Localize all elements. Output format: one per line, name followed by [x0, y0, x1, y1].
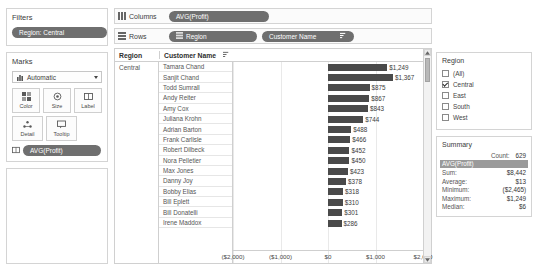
rows-shelf-label-group: Rows [118, 32, 164, 41]
customer-name-cell[interactable]: Sanjit Chand [159, 72, 232, 82]
marks-size-button[interactable]: Size [43, 88, 71, 113]
x-axis-tick-label: ($2,000) [221, 253, 244, 260]
bar-mark[interactable] [328, 116, 363, 123]
bar-row: $452 [233, 145, 423, 155]
bar-value-label: $843 [370, 105, 384, 112]
customer-name-cell[interactable]: Adrian Barton [159, 124, 232, 134]
customer-name-cell[interactable]: Frank Carlisle [159, 135, 232, 145]
scroll-up-icon[interactable] [424, 49, 431, 56]
customer-name-cell[interactable]: Danny Joy [159, 176, 232, 186]
rows-pill-region[interactable]: Region [169, 31, 257, 42]
region-filter-item[interactable]: South [442, 101, 526, 112]
region-filter-item[interactable]: West [442, 112, 526, 123]
bar-mark[interactable] [328, 84, 370, 91]
bar-value-label: $286 [344, 220, 358, 227]
marks-label-button[interactable]: Label [74, 88, 102, 113]
bar-mark[interactable] [328, 220, 342, 227]
bar-mark[interactable] [328, 136, 350, 143]
columns-shelf-label-group: Columns [118, 12, 164, 21]
bar-mark[interactable] [328, 74, 393, 81]
marks-tooltip-button[interactable]: Tooltip [46, 116, 77, 141]
checkbox-icon[interactable] [442, 114, 449, 121]
marks-title: Marks [12, 57, 102, 66]
marks-detail-button[interactable]: Detail [12, 116, 43, 141]
customer-name-cell[interactable]: Bill Eplett [159, 197, 232, 207]
bar-value-label: $378 [348, 178, 362, 185]
bar-mark[interactable] [328, 147, 349, 154]
x-axis: ($2,000)($1,000)$0$1,000$2,000 [233, 250, 423, 263]
bar-value-label: $450 [351, 157, 365, 164]
columns-pill-label: AVG(Profit) [176, 13, 209, 20]
customer-name-cell[interactable]: Max Jones [159, 166, 232, 176]
customer-name-cell[interactable]: Andy Reiter [159, 93, 232, 103]
bar-value-label: $488 [353, 126, 367, 133]
customer-name-cell[interactable]: Irene Maddox [159, 218, 232, 228]
header-region[interactable]: Region [115, 52, 159, 59]
customer-name-cell[interactable]: Todd Sumrall [159, 83, 232, 93]
bar-row: $867 [233, 93, 423, 103]
customer-name-cell[interactable]: Amy Cox [159, 104, 232, 114]
filters-card: Filters Region: Central [6, 8, 108, 46]
chevron-down-icon[interactable] [94, 76, 98, 79]
region-filter-item-label: West [453, 114, 467, 121]
customer-name-cell[interactable]: Tamara Chand [159, 62, 232, 72]
region-filter-list: (All)CentralEastSouthWest [442, 68, 526, 123]
bar-row: $1,249 [233, 62, 423, 72]
columns-pill-avg-profit[interactable]: AVG(Profit) [169, 11, 269, 22]
region-cell: Central [115, 62, 159, 263]
bar-chart-icon [17, 74, 24, 81]
columns-shelf[interactable]: Columns AVG(Profit) [114, 8, 432, 24]
bar-mark[interactable] [328, 168, 348, 175]
bar-row: $466 [233, 135, 423, 145]
color-icon [22, 92, 31, 102]
left-panel-spacer [6, 168, 108, 264]
bar-row: $286 [233, 218, 423, 228]
customer-name-cell[interactable]: Robert Dilbeck [159, 145, 232, 155]
region-filter-item[interactable]: East [442, 90, 526, 101]
visualization-pane: Region Customer Name [114, 48, 432, 264]
header-customer-name[interactable]: Customer Name [159, 51, 233, 59]
bar-mark[interactable] [328, 157, 349, 164]
checkbox-icon[interactable] [442, 103, 449, 110]
marks-pill-row: AVG(Profit) [12, 145, 102, 156]
table-header-row: Region Customer Name [115, 49, 423, 62]
mark-type-select[interactable]: Automatic [12, 71, 102, 83]
bar-mark[interactable] [328, 126, 351, 133]
bar-mark[interactable] [328, 95, 369, 102]
bar-mark[interactable] [328, 209, 342, 216]
customer-name-cell[interactable]: Bobby Elias [159, 187, 232, 197]
bar-row: $318 [233, 187, 423, 197]
customer-name-cell[interactable]: Juliana Krohn [159, 114, 232, 124]
summary-stat-value: $6 [519, 203, 526, 210]
bar-mark[interactable] [328, 105, 368, 112]
checkbox-icon[interactable] [442, 70, 449, 77]
summary-title: Summary [442, 141, 526, 148]
summary-stat-value: ($2,465) [503, 186, 526, 193]
bar-mark[interactable] [328, 199, 343, 206]
checkbox-icon[interactable] [442, 92, 449, 99]
rows-pill-customer-name[interactable]: Customer Name [262, 31, 354, 42]
customer-name-cell[interactable]: Nora Pelletier [159, 156, 232, 166]
checkbox-icon[interactable] [442, 81, 449, 88]
marks-size-label: Size [52, 103, 63, 109]
viz-inner: Region Customer Name [115, 49, 423, 263]
sort-indicator-icon[interactable] [223, 51, 230, 59]
rows-icon [118, 32, 126, 41]
bar-mark[interactable] [328, 188, 343, 195]
filter-pill-region[interactable]: Region: Central [12, 27, 107, 38]
bar-mark[interactable] [328, 64, 387, 71]
sort-descending-icon[interactable] [340, 32, 347, 40]
rows-shelf[interactable]: Rows Region Customer Name [114, 28, 432, 44]
region-filter-item-label: (All) [453, 70, 464, 77]
vertical-scrollbar[interactable] [423, 49, 431, 263]
marks-pill-avg-profit[interactable]: AVG(Profit) [23, 145, 101, 156]
summary-field-band: AVG(Profit) [440, 160, 528, 169]
region-filter-item[interactable]: Central [442, 79, 526, 90]
scroll-down-icon[interactable] [424, 256, 431, 263]
summary-stat-row: Sum:$8,442 [442, 168, 526, 177]
region-filter-item[interactable]: (All) [442, 68, 526, 79]
marks-color-button[interactable]: Color [12, 88, 40, 113]
scrollbar-thumb[interactable] [425, 58, 430, 82]
bar-mark[interactable] [328, 178, 346, 185]
customer-name-cell[interactable]: Bill Donatelli [159, 207, 232, 217]
